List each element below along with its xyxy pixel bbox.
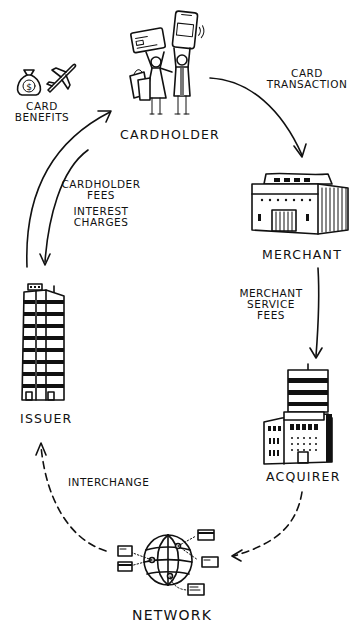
svg-text:$: $ [26,82,32,92]
interchange-label: Interchange [68,477,149,488]
cardholder-label: Cardholder [120,128,220,141]
acquirer-label: Acquirer [266,470,341,483]
payment-flow-diagram: $ Card Benefits [0,0,360,641]
card-transaction-label: Card Transaction [262,68,352,90]
card-benefits-line2: Benefits [12,112,72,123]
cardholder-fees-line2: Fees [56,190,146,201]
bank-building-icon [262,362,334,462]
shopping-people-icon [128,10,208,120]
merchant-service-fees-label: Merchant Service Fees [236,288,306,321]
issuer-label: Issuer [20,412,73,425]
tower-building-icon [18,280,68,402]
arrow-acquirer-to-network [232,492,302,561]
cardholder-fees-label: Cardholder Fees Interest Charges [56,179,146,228]
globe-network-icon [114,524,234,604]
card-transaction-line2: Transaction [262,79,352,90]
arrow-merchant-service-fees [310,268,322,358]
interest-charges-line2: Charges [56,217,146,228]
network-label: Network [132,608,212,623]
merchant-label: Merchant [262,248,342,261]
store-building-icon [248,170,352,236]
card-benefits-label: Card Benefits [12,101,72,123]
arrow-interchange [36,443,106,551]
airplane-icon [44,60,78,94]
msf-line3: Fees [236,310,306,321]
money-bag-icon: $ [14,66,44,98]
